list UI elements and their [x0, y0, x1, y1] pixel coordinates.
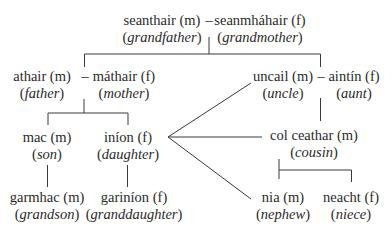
- label-en: (grandmother): [214, 29, 305, 46]
- label-en-text: granddaughter: [91, 206, 178, 222]
- node-cousin: col ceathar (m) (cousin): [270, 127, 358, 161]
- label-en-text: son: [37, 146, 57, 162]
- label-ga: seanmháhair (f): [214, 12, 305, 29]
- label-en-text: nephew: [261, 206, 305, 222]
- connector-daughter-to-uncle: [168, 83, 251, 137]
- label-en: (uncle): [253, 85, 313, 102]
- node-aunt: aintín (f) (aunt): [328, 68, 379, 102]
- node-granddaughter: gariníon (f) (granddaughter): [86, 189, 183, 223]
- node-son: mac (m) (son): [23, 129, 72, 163]
- label-ga: aintín (f): [328, 68, 379, 85]
- label-ga: garmhac (m): [10, 189, 84, 206]
- label-en: (granddaughter): [86, 206, 183, 223]
- label-en-text: aunt: [341, 85, 367, 101]
- label-en: (aunt): [328, 85, 379, 102]
- label-ga: máthair (f): [93, 68, 155, 85]
- label-en: (niece): [323, 206, 379, 223]
- label-en: (son): [23, 146, 72, 163]
- node-niece: neacht (f) (niece): [323, 189, 379, 223]
- label-en-text: uncle: [267, 85, 298, 101]
- label-ga: athair (m): [13, 68, 71, 85]
- label-ga: mac (m): [23, 129, 72, 146]
- label-ga: iníon (f): [97, 129, 159, 146]
- label-en-text: niece: [336, 206, 367, 222]
- node-nephew: nia (m) (nephew): [256, 189, 310, 223]
- node-grandfather: seanthair (m) (grandfather): [123, 12, 202, 46]
- label-en: (grandfather): [123, 29, 202, 46]
- dash-parents: –: [81, 68, 88, 85]
- label-en-text: grandfather: [127, 29, 196, 45]
- label-ga: nia (m): [256, 189, 310, 206]
- label-en-text: father: [25, 85, 60, 101]
- node-daughter: iníon (f) (daughter): [97, 129, 159, 163]
- label-ga: seanthair (m): [123, 12, 202, 29]
- label-ga: col ceathar (m): [270, 127, 358, 144]
- label-en: (father): [13, 85, 71, 102]
- dash-uncle-aunt: –: [317, 68, 324, 85]
- label-en: (mother): [93, 85, 155, 102]
- label-en: (nephew): [256, 206, 310, 223]
- label-en: (daughter): [97, 146, 159, 163]
- label-en: (grandson): [10, 206, 84, 223]
- label-ga: uncail (m): [253, 68, 313, 85]
- node-grandmother: seanmháhair (f) (grandmother): [214, 12, 305, 46]
- label-en-text: mother: [103, 85, 144, 101]
- label-en-text: grandmother: [222, 29, 298, 45]
- label-en-text: daughter: [102, 146, 154, 162]
- node-mother: máthair (f) (mother): [93, 68, 155, 102]
- node-grandson: garmhac (m) (grandson): [10, 189, 84, 223]
- label-ga: neacht (f): [323, 189, 379, 206]
- label-en-text: grandson: [20, 206, 75, 222]
- node-uncle: uncail (m) (uncle): [253, 68, 313, 102]
- label-en: (cousin): [270, 144, 358, 161]
- node-father: athair (m) (father): [13, 68, 71, 102]
- label-en-text: cousin: [295, 144, 333, 160]
- label-ga: gariníon (f): [86, 189, 183, 206]
- dash-grandparents: –: [205, 12, 212, 29]
